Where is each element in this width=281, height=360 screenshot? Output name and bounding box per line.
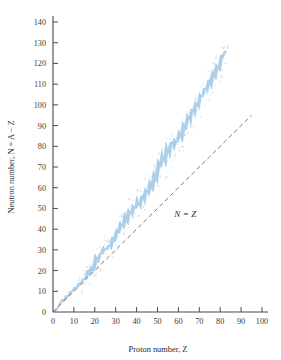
- band-speckle-dot: [157, 185, 158, 186]
- band-speckle-dot: [214, 64, 215, 65]
- band-speckle-dot: [148, 197, 149, 198]
- band-speckle-dot: [121, 215, 122, 216]
- band-speckle-dot: [89, 284, 90, 285]
- y-tick-label: 60: [38, 184, 46, 193]
- band-speckle-dot: [79, 278, 80, 279]
- band-speckle-dot: [139, 215, 140, 216]
- band-speckle-dot: [147, 191, 148, 192]
- band-speckle-dot: [222, 46, 223, 47]
- band-speckle-dot: [86, 285, 87, 286]
- band-speckle-dot: [219, 81, 220, 82]
- band-speckle-dot: [125, 212, 126, 213]
- y-tick-label: 10: [38, 287, 46, 296]
- band-speckle-dot: [164, 152, 165, 153]
- band-speckle-dot: [187, 132, 188, 133]
- band-speckle-dot: [162, 149, 163, 150]
- band-speckle-dot: [226, 46, 227, 47]
- band-speckle-dot: [131, 204, 132, 205]
- band-speckle-dot: [148, 174, 149, 175]
- band-speckle-dot: [155, 168, 156, 169]
- band-speckle-dot: [108, 240, 109, 241]
- band-speckle-dot: [122, 216, 123, 217]
- band-speckle-dot: [135, 205, 136, 206]
- y-tick-label: 120: [34, 59, 46, 68]
- band-speckle-dot: [193, 111, 194, 112]
- band-speckle-dot: [158, 153, 159, 154]
- band-speckle-dot: [161, 167, 162, 168]
- x-tick-label: 0: [51, 317, 55, 326]
- band-speckle-dot: [181, 146, 182, 147]
- band-speckle-dot: [116, 250, 117, 251]
- band-speckle-dot: [83, 270, 84, 271]
- band-speckle-dot: [140, 209, 141, 210]
- band-speckle-dot: [176, 142, 177, 143]
- band-speckle-dot: [96, 272, 97, 273]
- band-speckle-dot: [100, 270, 101, 271]
- band-speckle-dot: [78, 280, 79, 281]
- band-speckle-dot: [202, 95, 203, 96]
- band-speckle-dot: [208, 71, 209, 72]
- band-speckle-dot: [210, 79, 211, 80]
- band-speckle-dot: [203, 84, 204, 85]
- y-axis-title: Neutron number, N = A − Z: [7, 120, 16, 213]
- band-speckle-dot: [104, 244, 105, 245]
- band-speckle-dot: [203, 82, 204, 83]
- n-equals-z-annotation: N=Z: [173, 209, 197, 219]
- band-speckle-dot: [132, 217, 133, 218]
- band-speckle-dot: [134, 213, 135, 214]
- band-speckle-dot: [144, 209, 145, 210]
- band-speckle-dot: [89, 276, 90, 277]
- band-speckle-dot: [90, 259, 91, 260]
- band-speckle-dot: [123, 220, 124, 221]
- y-tick-label: 80: [38, 142, 46, 151]
- band-speckle-dot: [191, 134, 192, 135]
- band-speckle-dot: [87, 267, 88, 268]
- band-speckle-dot: [213, 63, 214, 64]
- x-tick-label: 50: [153, 317, 161, 326]
- band-speckle-dot: [118, 241, 119, 242]
- band-speckle-dot: [174, 156, 175, 157]
- x-axis: 0102030405060708090100: [51, 307, 268, 326]
- band-speckle-dot: [187, 107, 188, 108]
- band-speckle-dot: [129, 212, 130, 213]
- x-tick-label: 20: [91, 317, 99, 326]
- y-tick-label: 20: [38, 267, 46, 276]
- band-speckle-dot: [166, 138, 167, 139]
- band-speckle-dot: [202, 88, 203, 89]
- band-speckle-dot: [221, 69, 222, 70]
- band-speckle-dot: [192, 126, 193, 127]
- band-speckle-dot: [225, 63, 226, 64]
- band-speckle-dot: [94, 275, 95, 276]
- y-tick-label: 50: [38, 204, 46, 213]
- x-tick-label: 90: [237, 317, 245, 326]
- y-tick-label: 130: [34, 39, 46, 48]
- band-speckle-dot: [149, 178, 150, 179]
- band-speckle-dot: [150, 176, 151, 177]
- band-speckle-dot: [84, 273, 85, 274]
- band-speckle-dot: [114, 233, 115, 234]
- band-speckle-dot: [133, 200, 134, 201]
- band-speckle-dot: [117, 237, 118, 238]
- band-speckle-dot: [205, 91, 206, 92]
- band-speckle-dot: [77, 297, 78, 298]
- band-speckle-dot: [193, 105, 194, 106]
- chart-svg: 0102030405060708090100110120130140 01020…: [0, 0, 281, 360]
- band-speckle-dot: [190, 109, 191, 110]
- y-tick-label: 30: [38, 246, 46, 255]
- band-speckle-dot: [154, 164, 155, 165]
- band-speckle-dot: [158, 185, 159, 186]
- band-speckle-dot: [95, 275, 96, 276]
- band-speckle-dot: [144, 178, 145, 179]
- y-tick-label: 70: [38, 163, 46, 172]
- band-speckle-dot: [216, 54, 217, 55]
- x-tick-label: 40: [133, 317, 141, 326]
- band-speckle-dot: [88, 265, 89, 266]
- band-speckle-dot: [128, 227, 129, 228]
- band-speckle-dot: [84, 282, 85, 283]
- band-speckle-dot: [106, 256, 107, 257]
- band-speckle-dot: [105, 240, 106, 241]
- band-speckle-dot: [172, 147, 173, 148]
- band-speckle-dot: [218, 67, 219, 68]
- band-speckle-dot: [137, 189, 138, 190]
- band-speckle-dot: [211, 70, 212, 71]
